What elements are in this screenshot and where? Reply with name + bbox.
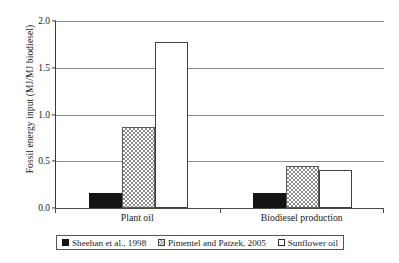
legend-label-sunflower: Sunflower oil (288, 238, 338, 248)
gridline (56, 68, 384, 69)
plot-area: 0.00.51.01.52.0 (55, 21, 384, 208)
x-tick-mark (383, 208, 384, 213)
legend-label-sheehan: Sheehan et al., 1998 (72, 238, 146, 248)
legend-label-pimentel: Pimentel and Patzek, 2005 (168, 238, 266, 248)
legend-swatch-open-icon (278, 239, 285, 246)
y-tick-label: 0.5 (38, 156, 50, 166)
x-tick-mark (55, 208, 56, 213)
gridline (56, 161, 384, 162)
y-tick-mark (52, 67, 56, 68)
x-group-label-1: Plant oil (121, 212, 154, 223)
y-tick-label: 2.0 (38, 16, 50, 26)
y-tick-mark (52, 20, 56, 21)
bar-2-3 (319, 170, 352, 208)
y-tick-mark (52, 114, 56, 115)
y-tick-mark (52, 161, 56, 162)
y-axis-title: Fossil energy input (MJ/MJ biodiesel) (25, 0, 35, 199)
y-tick-label: 1.0 (38, 110, 50, 120)
bar-2-2 (286, 166, 319, 208)
chart-legend: Sheehan et al., 1998 Pimentel and Patzek… (56, 235, 344, 250)
legend-item-pimentel: Pimentel and Patzek, 2005 (158, 238, 266, 248)
bar-1-3 (155, 42, 188, 208)
fossil-energy-input-bar-chart: Fossil energy input (MJ/MJ biodiesel) 0.… (0, 0, 399, 263)
gridline (56, 21, 384, 22)
legend-swatch-checker-icon (158, 239, 165, 246)
y-tick-label: 1.5 (38, 63, 50, 73)
bar-2-1 (253, 193, 286, 208)
y-tick-label: 0.0 (38, 203, 50, 213)
bar-1-2 (122, 127, 155, 208)
legend-item-sunflower: Sunflower oil (278, 238, 338, 248)
legend-item-sheehan: Sheehan et al., 1998 (62, 238, 146, 248)
legend-swatch-solid-icon (62, 239, 69, 246)
gridline (56, 115, 384, 116)
bar-1-1 (89, 193, 122, 208)
x-group-label-2: Biodiesel production (261, 212, 343, 223)
x-tick-mark (220, 208, 221, 213)
